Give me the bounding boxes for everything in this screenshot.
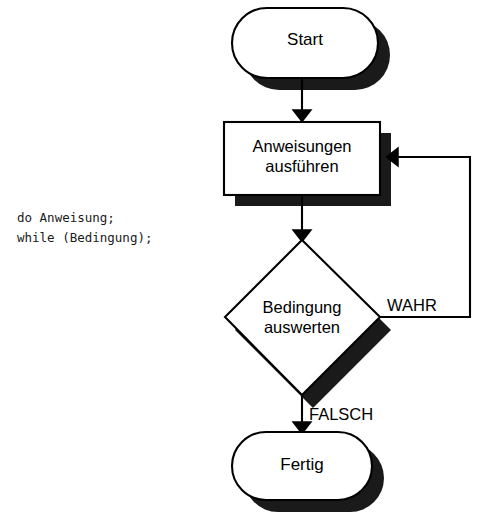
code-line-while: while (Bedingung);: [17, 230, 152, 245]
code-snippet: do Anweisung; while (Bedingung);: [17, 208, 152, 248]
start-node[interactable]: [232, 8, 378, 78]
process-node[interactable]: [224, 122, 380, 195]
edge-decision-true-loop: [380, 157, 470, 317]
code-line-do: do Anweisung;: [17, 210, 115, 225]
decision-node[interactable]: [225, 240, 380, 395]
end-node[interactable]: [232, 432, 372, 500]
flowchart-canvas: [0, 0, 496, 526]
